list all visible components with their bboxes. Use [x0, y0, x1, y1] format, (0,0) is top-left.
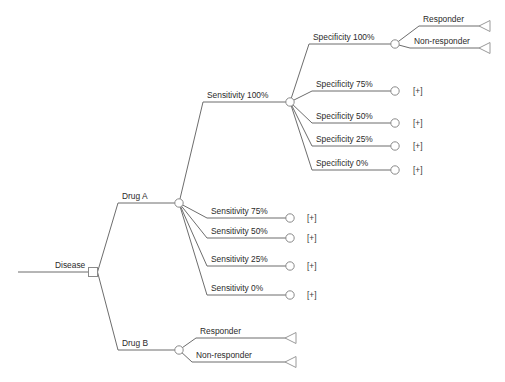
chance-node-drug-a[interactable]: [175, 199, 183, 207]
chance-node-specificity-0[interactable]: [391, 166, 399, 174]
branch-label-spec100-nonresponder: Non-responder: [414, 36, 470, 46]
chance-node-sensitivity-50[interactable]: [286, 234, 294, 242]
chance-node-specificity-100[interactable]: [391, 40, 399, 48]
chance-node-sensitivity-0[interactable]: [286, 291, 294, 299]
chance-node-sensitivity-75[interactable]: [286, 214, 294, 222]
nodes-layer: [89, 21, 491, 368]
edge-specificity-100: [290, 44, 395, 102]
branch-label-specificity-0: Specificity 0%: [316, 158, 369, 168]
labels-layer: DiseaseDrug ASensitivity 100%Specificity…: [55, 14, 470, 360]
chance-node-drug-b[interactable]: [175, 346, 183, 354]
branch-label-sensitivity-25: Sensitivity 25%: [211, 254, 268, 264]
root-label: Disease: [55, 260, 86, 270]
branch-label-sensitivity-75: Sensitivity 75%: [211, 206, 268, 216]
terminal-node-drugb-responder[interactable]: [285, 333, 296, 344]
collapse-marker-sensitivity-25[interactable]: [+]: [307, 261, 317, 271]
edge-specificity-75: [290, 91, 395, 102]
branch-label-drug-a: Drug A: [122, 191, 148, 201]
branch-label-drugb-responder: Responder: [200, 326, 241, 336]
decision-node-root[interactable]: [89, 268, 98, 277]
chance-node-specificity-50[interactable]: [391, 119, 399, 127]
collapse-marker-specificity-50[interactable]: [+]: [413, 118, 423, 128]
branch-label-spec100-responder: Responder: [423, 14, 464, 24]
terminal-node-spec100-nonresponder[interactable]: [479, 43, 490, 54]
branch-label-sensitivity-0: Sensitivity 0%: [211, 283, 264, 293]
branch-label-sensitivity-50: Sensitivity 50%: [211, 226, 268, 236]
terminal-node-drugb-nonresponder[interactable]: [285, 357, 296, 368]
branch-label-specificity-50: Specificity 50%: [316, 111, 373, 121]
chance-node-specificity-75[interactable]: [391, 87, 399, 95]
chance-node-specificity-25[interactable]: [391, 142, 399, 150]
edge-sensitivity-0: [179, 203, 290, 295]
branch-label-drug-b: Drug B: [122, 338, 148, 348]
edge-drug-a: [98, 203, 180, 272]
branch-label-drugb-nonresponder: Non-responder: [196, 350, 252, 360]
branch-label-specificity-100: Specificity 100%: [313, 32, 375, 42]
terminal-node-spec100-responder[interactable]: [479, 21, 490, 32]
edge-drugb-responder: [179, 338, 296, 350]
chance-node-sensitivity-25[interactable]: [286, 262, 294, 270]
chance-node-sensitivity-100[interactable]: [286, 98, 294, 106]
collapse-marker-sensitivity-50[interactable]: [+]: [307, 233, 317, 243]
decision-tree-diagram: DiseaseDrug ASensitivity 100%Specificity…: [0, 0, 505, 382]
branch-label-specificity-75: Specificity 75%: [316, 79, 373, 89]
branch-label-specificity-25: Specificity 25%: [316, 134, 373, 144]
edges-layer: [18, 26, 490, 362]
collapse-marker-specificity-75[interactable]: [+]: [413, 86, 423, 96]
collapse-marker-specificity-25[interactable]: [+]: [413, 141, 423, 151]
collapse-marker-specificity-0[interactable]: [+]: [413, 165, 423, 175]
collapse-marker-sensitivity-75[interactable]: [+]: [307, 213, 317, 223]
branch-label-sensitivity-100: Sensitivity 100%: [207, 90, 269, 100]
collapse-marker-sensitivity-0[interactable]: [+]: [307, 290, 317, 300]
edge-sensitivity-100: [179, 102, 290, 203]
